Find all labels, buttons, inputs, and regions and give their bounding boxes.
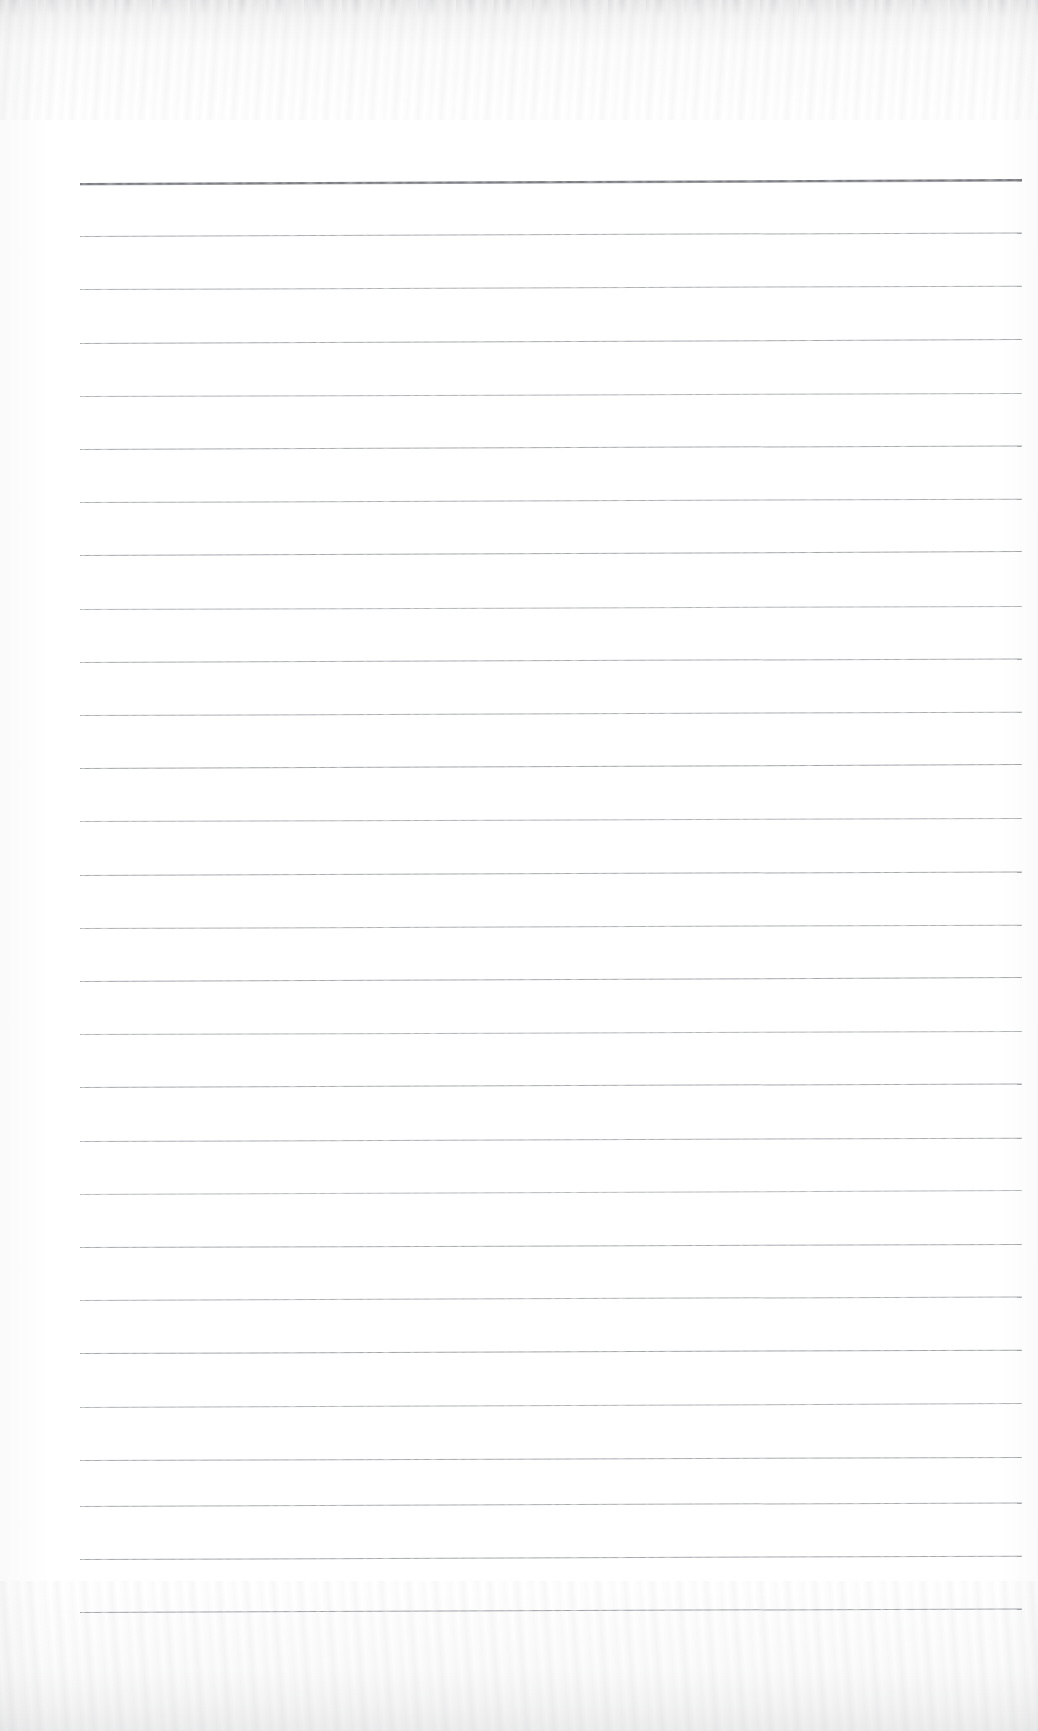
writing-line-row[interactable]	[80, 769, 1022, 821]
writing-line-row[interactable]	[80, 982, 1022, 1034]
writing-line-row[interactable]	[80, 450, 1022, 502]
writing-line-row[interactable]	[80, 929, 1022, 981]
writing-line-row[interactable]	[80, 1142, 1022, 1194]
writing-line-row[interactable]	[80, 610, 1022, 662]
writing-line-row[interactable]	[80, 237, 1022, 289]
scanned-page	[0, 0, 1038, 1731]
writing-line-row[interactable]	[80, 1088, 1022, 1140]
writing-line-row[interactable]	[80, 663, 1022, 715]
writing-line-row[interactable]	[80, 1301, 1022, 1353]
writing-line-row[interactable]	[80, 1248, 1022, 1300]
writing-line-row[interactable]	[80, 1507, 1022, 1559]
writing-line-row[interactable]	[80, 1408, 1022, 1460]
writing-line-row[interactable]	[80, 556, 1022, 608]
writing-line-row[interactable]	[80, 822, 1022, 874]
writing-line-row[interactable]	[80, 1560, 1022, 1612]
writing-line-row[interactable]	[80, 185, 1022, 236]
writing-line-row[interactable]	[80, 503, 1022, 555]
writing-line-row[interactable]	[80, 1035, 1022, 1087]
writing-line-row[interactable]	[80, 290, 1022, 342]
writing-line-row[interactable]	[80, 1195, 1022, 1247]
writing-line-row[interactable]	[80, 1354, 1022, 1406]
writing-line-row[interactable]	[80, 876, 1022, 928]
writing-line-row[interactable]	[80, 716, 1022, 768]
writing-line-row[interactable]	[80, 397, 1022, 449]
writing-line-row[interactable]	[80, 1461, 1022, 1506]
writing-line-row[interactable]	[80, 344, 1022, 396]
